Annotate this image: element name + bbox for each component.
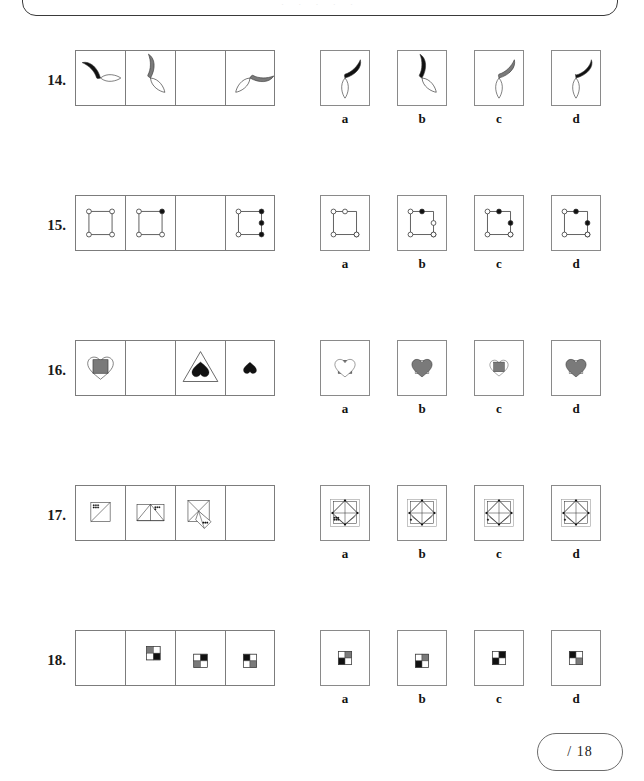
- answer-option-box[interactable]: [474, 195, 524, 251]
- stem-cell: [175, 340, 225, 396]
- answer-option-b[interactable]: b: [397, 485, 447, 562]
- question-row-14: 14.abcd: [0, 42, 644, 152]
- stem-cell-blank: [175, 50, 225, 106]
- answer-option-box[interactable]: [474, 485, 524, 541]
- answer-option-box[interactable]: [320, 630, 370, 686]
- answer-option-label: b: [397, 256, 447, 272]
- top-cutoff-panel: · · · · ·: [22, 0, 618, 16]
- answer-option-c[interactable]: c: [474, 50, 524, 127]
- top-panel-faint-text: · · · · ·: [23, 0, 617, 9]
- answer-option-d[interactable]: d: [551, 340, 601, 417]
- answer-option-label: b: [397, 691, 447, 707]
- question-stem-grid: [75, 485, 275, 541]
- answer-option-box[interactable]: [320, 485, 370, 541]
- answer-option-label: d: [551, 691, 601, 707]
- answer-option-label: b: [397, 401, 447, 417]
- question-number: 18.: [24, 652, 66, 669]
- stem-cell: [75, 50, 125, 106]
- stem-cell: [125, 485, 175, 541]
- answer-option-box[interactable]: [397, 195, 447, 251]
- answer-options: abcd: [320, 485, 601, 562]
- answer-option-box[interactable]: [551, 485, 601, 541]
- answer-option-label: c: [474, 401, 524, 417]
- answer-option-label: b: [397, 546, 447, 562]
- stem-cell: [175, 485, 225, 541]
- answer-option-box[interactable]: [474, 340, 524, 396]
- question-number: 16.: [24, 362, 66, 379]
- answer-options: abcd: [320, 195, 601, 272]
- answer-option-box[interactable]: [551, 195, 601, 251]
- answer-option-b[interactable]: b: [397, 195, 447, 272]
- answer-option-box[interactable]: [397, 340, 447, 396]
- score-box[interactable]: / 18: [537, 733, 623, 771]
- answer-option-label: a: [320, 111, 370, 127]
- answer-option-label: d: [551, 546, 601, 562]
- answer-option-box[interactable]: [551, 50, 601, 106]
- answer-option-box[interactable]: [397, 50, 447, 106]
- stem-cell: [125, 195, 175, 251]
- question-number: 17.: [24, 507, 66, 524]
- answer-option-label: a: [320, 401, 370, 417]
- answer-options: abcd: [320, 630, 601, 707]
- question-stem-grid: [75, 195, 275, 251]
- question-row-16: 16.abcd: [0, 332, 644, 442]
- stem-cell: [75, 195, 125, 251]
- answer-option-box[interactable]: [397, 630, 447, 686]
- answer-option-label: c: [474, 546, 524, 562]
- answer-option-label: b: [397, 111, 447, 127]
- answer-option-box[interactable]: [551, 340, 601, 396]
- answer-option-c[interactable]: c: [474, 630, 524, 707]
- answer-option-d[interactable]: d: [551, 50, 601, 127]
- stem-cell: [75, 340, 125, 396]
- answer-option-label: c: [474, 111, 524, 127]
- stem-cell: [125, 50, 175, 106]
- stem-cell-blank: [225, 485, 275, 541]
- answer-options: abcd: [320, 50, 601, 127]
- question-stem-grid: [75, 340, 275, 396]
- stem-cell: [175, 630, 225, 686]
- score-label: / 18: [538, 734, 622, 770]
- answer-option-label: a: [320, 256, 370, 272]
- answer-option-b[interactable]: b: [397, 630, 447, 707]
- question-stem-grid: [75, 50, 275, 106]
- answer-option-label: d: [551, 111, 601, 127]
- answer-option-box[interactable]: [397, 485, 447, 541]
- question-row-17: 17.abcd: [0, 477, 644, 587]
- answer-option-b[interactable]: b: [397, 50, 447, 127]
- answer-option-d[interactable]: d: [551, 195, 601, 272]
- answer-option-a[interactable]: a: [320, 195, 370, 272]
- answer-option-d[interactable]: d: [551, 485, 601, 562]
- answer-option-label: d: [551, 401, 601, 417]
- question-row-18: 18.abcd: [0, 622, 644, 732]
- answer-option-c[interactable]: c: [474, 340, 524, 417]
- stem-cell: [225, 630, 275, 686]
- answer-option-label: a: [320, 546, 370, 562]
- answer-option-a[interactable]: a: [320, 50, 370, 127]
- answer-option-b[interactable]: b: [397, 340, 447, 417]
- question-row-15: 15.abcd: [0, 187, 644, 297]
- stem-cell: [225, 50, 275, 106]
- answer-option-a[interactable]: a: [320, 485, 370, 562]
- answer-options: abcd: [320, 340, 601, 417]
- answer-option-label: d: [551, 256, 601, 272]
- answer-option-box[interactable]: [320, 50, 370, 106]
- stem-cell: [125, 630, 175, 686]
- answer-option-box[interactable]: [474, 630, 524, 686]
- answer-option-c[interactable]: c: [474, 485, 524, 562]
- question-stem-grid: [75, 630, 275, 686]
- answer-option-label: c: [474, 256, 524, 272]
- answer-option-d[interactable]: d: [551, 630, 601, 707]
- answer-option-box[interactable]: [320, 195, 370, 251]
- answer-option-box[interactable]: [320, 340, 370, 396]
- answer-option-label: c: [474, 691, 524, 707]
- stem-cell-blank: [175, 195, 225, 251]
- answer-option-box[interactable]: [474, 50, 524, 106]
- answer-option-label: a: [320, 691, 370, 707]
- stem-cell-blank: [125, 340, 175, 396]
- answer-option-a[interactable]: a: [320, 630, 370, 707]
- answer-option-a[interactable]: a: [320, 340, 370, 417]
- answer-option-c[interactable]: c: [474, 195, 524, 272]
- stem-cell-blank: [75, 630, 125, 686]
- stem-cell: [225, 195, 275, 251]
- answer-option-box[interactable]: [551, 630, 601, 686]
